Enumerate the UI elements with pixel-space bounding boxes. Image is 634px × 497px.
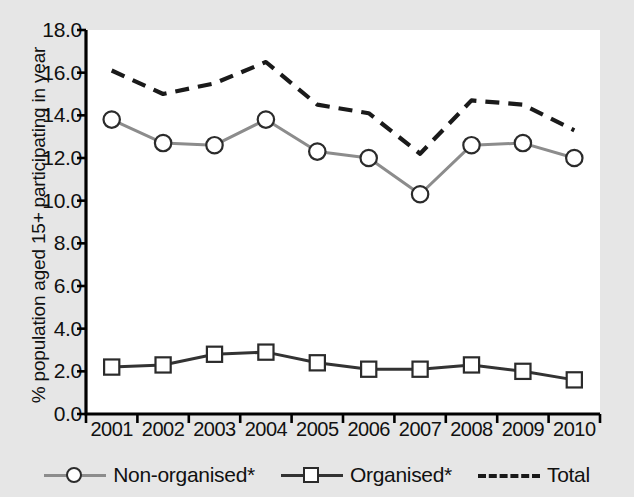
data-point-marker [104,359,119,374]
data-point-marker [206,137,222,153]
legend-label: Non-organised* [113,463,255,487]
data-point-marker [258,345,273,360]
chart-legend: Non-organised*Organised*Total [0,455,634,495]
data-point-marker [464,357,479,372]
legend-swatch [44,464,106,486]
data-point-marker [515,364,530,379]
legend-item: Organised* [281,463,452,487]
data-point-marker [310,355,325,370]
data-point-marker [155,135,171,151]
square-marker-icon [303,467,319,483]
data-point-marker [104,111,120,127]
chart-plot-area [0,0,634,497]
data-point-marker [463,137,479,153]
chart-figure: % population aged 15+ participating in y… [0,0,634,497]
data-point-marker [258,111,274,127]
legend-item: Non-organised* [44,463,255,487]
data-point-marker [207,347,222,362]
data-point-marker [156,357,171,372]
data-point-marker [567,372,582,387]
legend-swatch [281,464,343,486]
legend-label: Total [547,463,590,487]
legend-item: Total [478,463,590,487]
circle-marker-icon [66,467,82,483]
data-point-marker [412,186,428,202]
data-point-marker [566,150,582,166]
legend-label: Organised* [350,463,452,487]
legend-swatch [478,464,540,486]
data-point-marker [413,362,428,377]
legend-line [478,474,540,478]
data-point-marker [361,150,377,166]
data-point-marker [309,143,325,159]
data-point-marker [515,135,531,151]
data-point-marker [361,362,376,377]
